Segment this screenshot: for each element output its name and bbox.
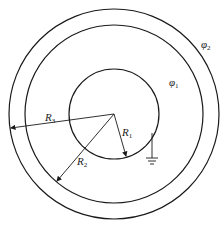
label-r1: R1	[121, 126, 133, 140]
radius-arrows	[11, 114, 126, 181]
r2-arrow	[57, 114, 114, 181]
labels: R1 R2 R3 φ1 φ2	[44, 38, 211, 169]
r3-arrow	[11, 114, 114, 128]
label-r3: R3	[44, 111, 56, 125]
label-phi2: φ2	[201, 38, 211, 52]
ground-symbol	[146, 133, 158, 164]
concentric-spheres-diagram: R1 R2 R3 φ1 φ2	[0, 0, 223, 230]
label-phi1: φ1	[169, 76, 179, 90]
label-r2: R2	[76, 155, 88, 169]
